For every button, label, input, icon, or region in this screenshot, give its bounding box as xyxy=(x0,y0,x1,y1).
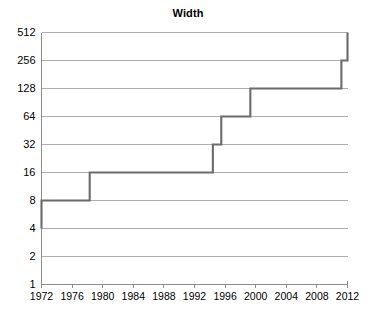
x-tick-label-1988: 1988 xyxy=(152,290,176,302)
y-tick-label-64: 64 xyxy=(23,110,35,122)
x-axis-tickmarks xyxy=(42,285,348,289)
axis-lines xyxy=(42,33,348,285)
y-tick-label-8: 8 xyxy=(29,194,35,206)
y-tick-label-1: 1 xyxy=(29,278,35,290)
y-tick-label-256: 256 xyxy=(17,54,35,66)
x-tick-label-2000: 2000 xyxy=(244,290,268,302)
y-axis-tick-labels: 1248163264128256512 xyxy=(17,26,35,290)
x-tick-label-1976: 1976 xyxy=(60,290,84,302)
gridlines xyxy=(42,33,348,285)
x-tick-label-2008: 2008 xyxy=(305,290,329,302)
x-tick-label-1972: 1972 xyxy=(30,290,54,302)
y-tick-label-512: 512 xyxy=(17,26,35,38)
x-tick-label-1980: 1980 xyxy=(91,290,115,302)
series-line-Width xyxy=(42,33,348,229)
chart-plot-area: 1248163264128256512 19721976198019841988… xyxy=(0,0,376,323)
y-tick-label-128: 128 xyxy=(17,82,35,94)
data-series xyxy=(42,33,348,229)
y-tick-label-16: 16 xyxy=(23,166,35,178)
y-tick-label-32: 32 xyxy=(23,138,35,150)
x-tick-label-1984: 1984 xyxy=(122,290,146,302)
x-tick-label-2004: 2004 xyxy=(275,290,299,302)
x-axis-tick-labels: 1972197619801984198819921996200020042008… xyxy=(30,290,360,302)
y-tick-label-4: 4 xyxy=(29,222,35,234)
x-tick-label-2012: 2012 xyxy=(336,290,360,302)
x-tick-label-1992: 1992 xyxy=(183,290,207,302)
y-tick-label-2: 2 xyxy=(29,250,35,262)
x-tick-label-1996: 1996 xyxy=(213,290,237,302)
chart-container: Width 1248163264128256512 19721976198019… xyxy=(0,0,376,323)
